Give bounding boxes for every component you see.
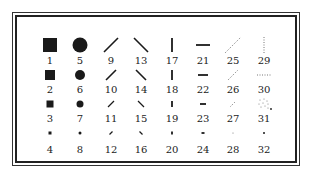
hbar-symbol-icon	[188, 64, 218, 86]
square-symbol-icon	[35, 122, 65, 144]
symbol-label: 12	[96, 145, 126, 155]
backslash-symbol-icon	[126, 122, 156, 144]
slash-symbol-icon	[96, 64, 126, 86]
slash-symbol-icon	[96, 34, 126, 56]
dot-symbol-icon	[218, 122, 248, 144]
symbol-label: 8	[65, 145, 95, 155]
symbol-label: 20	[157, 145, 187, 155]
symbol-label: 28	[218, 145, 248, 155]
hbar-symbol-icon	[188, 93, 218, 115]
symbol-label: 4	[35, 145, 65, 155]
circle-symbol-icon	[65, 122, 95, 144]
vbar-symbol-icon	[157, 93, 187, 115]
slash-symbol-icon	[96, 122, 126, 144]
hbar-symbol-icon	[188, 122, 218, 144]
circle-symbol-icon	[65, 64, 95, 86]
square-symbol-icon	[35, 93, 65, 115]
circle-symbol-icon	[65, 93, 95, 115]
dotted-slash-symbol-icon	[218, 34, 248, 56]
backslash-symbol-icon	[126, 34, 156, 56]
dotted-vbar-symbol-icon	[249, 34, 279, 56]
slash-symbol-icon	[96, 93, 126, 115]
hbar-symbol-icon	[188, 34, 218, 56]
dot-symbol-icon	[249, 122, 279, 144]
symbol-label: 16	[126, 145, 156, 155]
square-symbol-icon	[35, 64, 65, 86]
dotted-slash-symbol-icon	[218, 64, 248, 86]
circle-symbol-icon	[65, 34, 95, 56]
dotted-slash-symbol-icon	[218, 93, 248, 115]
symbol-label: 24	[188, 145, 218, 155]
dotted-hbar-symbol-icon	[249, 64, 279, 86]
square-symbol-icon	[35, 34, 65, 56]
dotted-cluster-symbol-icon	[249, 93, 279, 115]
vbar-symbol-icon	[157, 122, 187, 144]
backslash-symbol-icon	[126, 64, 156, 86]
vbar-symbol-icon	[157, 34, 187, 56]
symbol-label: 32	[249, 145, 279, 155]
backslash-symbol-icon	[126, 93, 156, 115]
vbar-symbol-icon	[157, 64, 187, 86]
